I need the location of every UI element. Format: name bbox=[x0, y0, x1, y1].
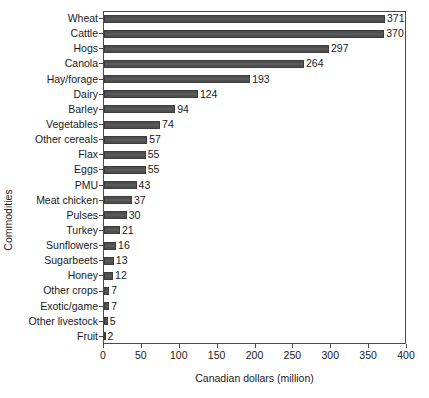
chart-row: Exotic/game7 bbox=[0, 299, 429, 314]
category-label: Meat chicken bbox=[36, 193, 98, 208]
category-label: Other cereals bbox=[35, 132, 98, 147]
bar-value-label: 124 bbox=[200, 87, 218, 102]
x-axis-tick-label: 400 bbox=[386, 349, 426, 361]
y-axis-tick bbox=[99, 139, 103, 140]
bar-value-label: 55 bbox=[148, 147, 160, 162]
chart-row: Sugarbeets13 bbox=[0, 253, 429, 268]
bar-value-label: 7 bbox=[111, 283, 117, 298]
category-label: Honey bbox=[68, 268, 98, 283]
chart-row: Sunflowers16 bbox=[0, 238, 429, 253]
bar bbox=[104, 151, 146, 159]
bar bbox=[104, 166, 146, 174]
y-axis-tick bbox=[99, 321, 103, 322]
bar-value-label: 16 bbox=[118, 238, 130, 253]
bar bbox=[104, 257, 114, 265]
y-axis-tick bbox=[99, 109, 103, 110]
bar-value-label: 193 bbox=[252, 72, 270, 87]
bar bbox=[104, 211, 127, 219]
x-axis-tick bbox=[406, 344, 407, 348]
bar bbox=[104, 242, 116, 250]
x-axis-tick bbox=[292, 344, 293, 348]
x-axis-tick-label: 300 bbox=[310, 349, 350, 361]
bar-value-label: 43 bbox=[139, 178, 151, 193]
bar bbox=[104, 181, 137, 189]
bar bbox=[104, 75, 250, 83]
chart-row: Other crops7 bbox=[0, 283, 429, 298]
chart-row: Barley94 bbox=[0, 102, 429, 117]
category-label: Hay/forage bbox=[47, 72, 98, 87]
bar bbox=[104, 60, 304, 68]
category-label: Vegetables bbox=[46, 117, 98, 132]
y-axis-tick bbox=[99, 291, 103, 292]
chart-row: Meat chicken37 bbox=[0, 193, 429, 208]
y-axis-tick bbox=[99, 33, 103, 34]
category-label: PMU bbox=[75, 178, 98, 193]
category-label: Canola bbox=[65, 56, 98, 71]
bars-container: Wheat371Cattle370Hogs297Canola264Hay/for… bbox=[0, 11, 429, 344]
category-label: Flax bbox=[78, 147, 98, 162]
chart-row: Hogs297 bbox=[0, 41, 429, 56]
y-axis-tick bbox=[99, 200, 103, 201]
bar-value-label: 57 bbox=[149, 132, 161, 147]
bar bbox=[104, 302, 109, 310]
chart-row: Turkey21 bbox=[0, 223, 429, 238]
x-axis-tick-label: 150 bbox=[197, 349, 237, 361]
x-axis-tick bbox=[103, 344, 104, 348]
bar bbox=[104, 317, 108, 325]
bar-value-label: 13 bbox=[116, 253, 128, 268]
y-axis-tick bbox=[99, 275, 103, 276]
bar-value-label: 94 bbox=[177, 102, 189, 117]
bar bbox=[104, 136, 147, 144]
category-label: Barley bbox=[68, 102, 98, 117]
x-axis-tick bbox=[368, 344, 369, 348]
category-label: Hogs bbox=[73, 41, 98, 56]
y-axis-tick bbox=[99, 260, 103, 261]
chart-row: Fruit2 bbox=[0, 329, 429, 344]
chart-row: Wheat371 bbox=[0, 11, 429, 26]
bar-value-label: 74 bbox=[162, 117, 174, 132]
bar bbox=[104, 121, 160, 129]
bar-value-label: 264 bbox=[306, 56, 324, 71]
y-axis-tick bbox=[99, 306, 103, 307]
chart-row: Hay/forage193 bbox=[0, 72, 429, 87]
bar bbox=[104, 332, 106, 340]
bar-value-label: 2 bbox=[108, 329, 114, 344]
bar-value-label: 37 bbox=[134, 193, 146, 208]
bar bbox=[104, 45, 329, 53]
chart-row: Dairy124 bbox=[0, 87, 429, 102]
y-axis-tick bbox=[99, 169, 103, 170]
chart-row: Pulses30 bbox=[0, 208, 429, 223]
x-axis-ticks: 050100150200250300350400 bbox=[0, 344, 429, 374]
chart-row: Other livestock5 bbox=[0, 314, 429, 329]
category-label: Wheat bbox=[68, 11, 98, 26]
x-axis-tick bbox=[217, 344, 218, 348]
category-label: Cattle bbox=[71, 26, 98, 41]
bar-value-label: 371 bbox=[387, 11, 405, 26]
bar-value-label: 30 bbox=[129, 208, 141, 223]
bar bbox=[104, 15, 385, 23]
x-axis-tick bbox=[179, 344, 180, 348]
category-label: Turkey bbox=[66, 223, 98, 238]
category-label: Dairy bbox=[73, 87, 98, 102]
y-axis-tick bbox=[99, 18, 103, 19]
chart-row: Vegetables74 bbox=[0, 117, 429, 132]
category-label: Eggs bbox=[74, 162, 98, 177]
chart-row: Cattle370 bbox=[0, 26, 429, 41]
category-label: Fruit bbox=[77, 329, 98, 344]
category-label: Sunflowers bbox=[46, 238, 98, 253]
x-axis-tick-label: 100 bbox=[159, 349, 199, 361]
category-label: Other crops bbox=[43, 283, 98, 298]
chart-row: Eggs55 bbox=[0, 162, 429, 177]
bar bbox=[104, 196, 132, 204]
bar-chart: Commodities Wheat371Cattle370Hogs297Cano… bbox=[0, 0, 429, 398]
chart-row: Flax55 bbox=[0, 147, 429, 162]
bar-value-label: 297 bbox=[331, 41, 349, 56]
category-label: Other livestock bbox=[29, 314, 98, 329]
bar bbox=[104, 226, 120, 234]
bar bbox=[104, 105, 175, 113]
y-axis-tick bbox=[99, 124, 103, 125]
category-label: Exotic/game bbox=[40, 299, 98, 314]
bar-value-label: 370 bbox=[386, 26, 404, 41]
chart-row: Canola264 bbox=[0, 56, 429, 71]
y-axis-tick bbox=[99, 230, 103, 231]
